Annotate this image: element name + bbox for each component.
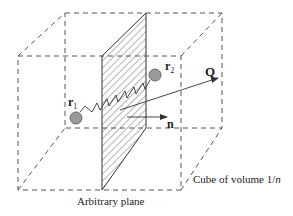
particle-r1: [70, 112, 82, 124]
cube-edge-top-left: [18, 13, 65, 56]
label-cube-volume: Cube of volume 1/n: [193, 173, 281, 185]
particle-r2: [149, 69, 161, 81]
label-r2: r2: [165, 59, 174, 75]
label-q: Q: [205, 64, 215, 79]
diagram-canvas: r1 r2 Q n Arbitrary plane Cube of volume…: [0, 0, 293, 216]
arbitrary-plane: [102, 13, 146, 190]
label-n: n: [167, 117, 174, 131]
cube-edge-top-right: [181, 13, 222, 56]
cube-edge-bottom-left: [18, 128, 65, 190]
label-r1: r1: [68, 95, 77, 111]
label-arbitrary-plane: Arbitrary plane: [77, 195, 145, 207]
